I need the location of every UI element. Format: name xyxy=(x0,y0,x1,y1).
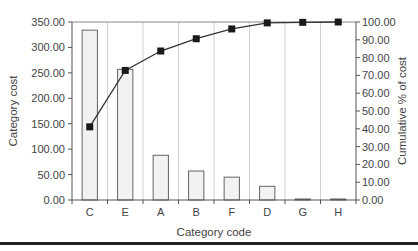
y2-tick-label: 100.00 xyxy=(362,16,396,28)
x-tick-label: A xyxy=(157,206,165,218)
y-tick-label: 300.00 xyxy=(31,41,65,53)
y2-axis-title: Cumulative % of cost xyxy=(396,56,408,165)
pareto-chart: 0.0050.00100.00150.00200.00250.00300.003… xyxy=(0,0,418,251)
x-tick-label: H xyxy=(334,206,342,218)
bar-D xyxy=(260,186,275,200)
y2-tick-label: 10.00 xyxy=(362,176,390,188)
square-marker-icon xyxy=(157,48,164,55)
square-marker-icon xyxy=(86,123,93,130)
x-tick-label: E xyxy=(122,206,129,218)
x-axis-title: Category code xyxy=(177,226,252,238)
bar-E xyxy=(118,69,133,200)
bar-B xyxy=(189,171,204,200)
square-marker-icon xyxy=(193,35,200,42)
y2-tick-label: 30.00 xyxy=(362,141,390,153)
y-tick-label: 100.00 xyxy=(31,143,65,155)
x-tick-label: D xyxy=(263,206,271,218)
bar-A xyxy=(153,155,168,200)
x-tick-label: B xyxy=(193,206,200,218)
y2-tick-label: 90.00 xyxy=(362,34,390,46)
y-tick-label: 150.00 xyxy=(31,118,65,130)
square-marker-icon xyxy=(228,25,235,32)
y-axis-title: Category cost xyxy=(7,75,19,147)
y-tick-label: 0.00 xyxy=(44,194,65,206)
square-marker-icon xyxy=(122,67,129,74)
y2-tick-label: 50.00 xyxy=(362,105,390,117)
square-marker-icon xyxy=(299,19,306,26)
y2-tick-label: 60.00 xyxy=(362,87,390,99)
square-marker-icon xyxy=(264,19,271,26)
bottom-rule xyxy=(0,242,418,245)
bar-F xyxy=(224,177,239,200)
y-tick-label: 50.00 xyxy=(37,169,65,181)
x-tick-label: C xyxy=(86,206,94,218)
y-tick-label: 250.00 xyxy=(31,67,65,79)
square-marker-icon xyxy=(335,19,342,26)
x-tick-label: F xyxy=(228,206,235,218)
y2-tick-label: 0.00 xyxy=(362,194,383,206)
y2-tick-label: 40.00 xyxy=(362,123,390,135)
y2-tick-label: 80.00 xyxy=(362,52,390,64)
grid-lines xyxy=(72,22,356,200)
y2-tick-label: 20.00 xyxy=(362,158,390,170)
bar-C xyxy=(82,30,97,200)
y-tick-label: 200.00 xyxy=(31,92,65,104)
x-tick-label: G xyxy=(298,206,307,218)
y2-tick-label: 70.00 xyxy=(362,69,390,81)
y-tick-label: 350.00 xyxy=(31,16,65,28)
